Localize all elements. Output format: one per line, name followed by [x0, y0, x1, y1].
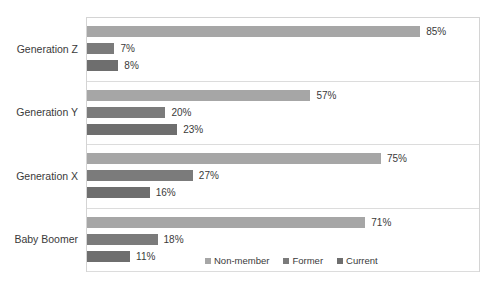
- bar-value-label: 18%: [164, 234, 184, 245]
- bar-row: 57%: [87, 90, 336, 101]
- bar-row: 71%: [87, 217, 391, 228]
- bar-value-label: 7%: [120, 43, 134, 54]
- bar-value-label: 71%: [371, 217, 391, 228]
- category-label: Baby Boomer: [14, 233, 82, 245]
- bar-non-member: [87, 153, 381, 164]
- bar-value-label: 11%: [136, 251, 155, 262]
- category-label-item: Generation Z: [0, 17, 82, 81]
- legend-swatch-icon: [283, 258, 289, 264]
- bar-row: 75%: [87, 153, 407, 164]
- bar-non-member: [87, 217, 365, 228]
- bar-row: 11%: [87, 251, 155, 262]
- category-label: Generation Y: [16, 106, 82, 118]
- category-label-item: Generation Y: [0, 81, 82, 145]
- chart-legend: Non-member Former Current: [205, 256, 378, 266]
- bar-current: [87, 60, 118, 71]
- bar-former: [87, 107, 165, 118]
- bar-value-label: 75%: [387, 153, 407, 164]
- bar-former: [87, 170, 193, 181]
- legend-item-former[interactable]: Former: [283, 256, 323, 266]
- bar-row: 23%: [87, 124, 203, 135]
- bar-current: [87, 251, 130, 262]
- bar-row: 27%: [87, 170, 219, 181]
- bar-row: 18%: [87, 234, 184, 245]
- legend-label: Non-member: [214, 256, 269, 266]
- legend-item-non-member[interactable]: Non-member: [205, 256, 269, 266]
- bar-chart: Generation Z Generation Y Generation X B…: [0, 0, 489, 293]
- legend-swatch-icon: [337, 258, 343, 264]
- legend-swatch-icon: [205, 258, 211, 264]
- bar-row: 7%: [87, 43, 135, 54]
- bar-row: 16%: [87, 187, 176, 198]
- bar-group: 75% 27% 16%: [87, 145, 479, 209]
- bar-row: 8%: [87, 60, 139, 71]
- bar-value-label: 57%: [316, 90, 336, 101]
- bar-former: [87, 234, 158, 245]
- category-label: Generation X: [16, 170, 82, 182]
- category-axis-labels: Generation Z Generation Y Generation X B…: [0, 17, 82, 272]
- bar-value-label: 20%: [171, 107, 191, 118]
- category-label-item: Baby Boomer: [0, 208, 82, 272]
- bar-current: [87, 124, 177, 135]
- bar-value-label: 85%: [426, 26, 446, 37]
- bar-row: 20%: [87, 107, 191, 118]
- bar-value-label: 27%: [199, 170, 219, 181]
- bar-non-member: [87, 26, 420, 37]
- bar-group: 57% 20% 23%: [87, 82, 479, 146]
- bar-value-label: 8%: [124, 60, 138, 71]
- legend-label: Current: [346, 256, 378, 266]
- legend-label: Former: [292, 256, 323, 266]
- bar-value-label: 23%: [183, 124, 203, 135]
- bar-group: 85% 7% 8%: [87, 18, 479, 82]
- legend-item-current[interactable]: Current: [337, 256, 378, 266]
- bar-former: [87, 43, 114, 54]
- category-label: Generation Z: [17, 43, 82, 55]
- plot-area: 85% 7% 8% 57% 20% 23%: [86, 17, 480, 272]
- bar-current: [87, 187, 150, 198]
- bar-value-label: 16%: [156, 187, 176, 198]
- bar-row: 85%: [87, 26, 446, 37]
- category-label-item: Generation X: [0, 144, 82, 208]
- bar-non-member: [87, 90, 310, 101]
